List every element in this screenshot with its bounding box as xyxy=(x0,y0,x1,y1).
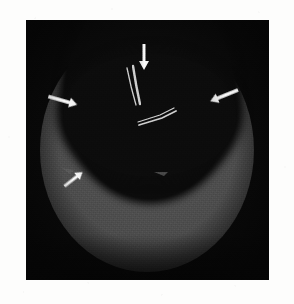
device-horizontal-shadow xyxy=(139,111,176,125)
arrow-bottom-left xyxy=(62,169,86,190)
landmark-notch-left xyxy=(62,168,74,174)
arrow-right xyxy=(208,85,240,106)
scan-image-panel[interactable] xyxy=(26,20,269,280)
landmark-notch-bottom-right xyxy=(154,172,168,176)
annotation-overlay xyxy=(26,20,269,280)
arrow-top xyxy=(139,44,149,70)
arrow-left xyxy=(47,92,79,110)
